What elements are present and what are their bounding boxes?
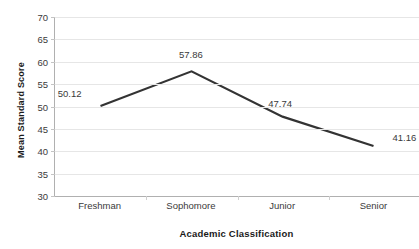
data-point-label: 47.74: [268, 97, 292, 108]
y-axis-tick: [51, 62, 55, 63]
data-point-label: 50.12: [58, 87, 82, 98]
y-axis-tick-label: 60: [24, 56, 48, 67]
x-axis-category-label: Junior: [269, 200, 295, 211]
y-axis-tick: [51, 151, 55, 152]
gridline: [55, 129, 419, 130]
y-axis-tick-label: 45: [24, 123, 48, 134]
x-axis-title: Academic Classification: [54, 228, 419, 239]
y-axis-tick-label: 70: [24, 12, 48, 23]
y-axis-tick: [51, 17, 55, 18]
x-axis-category-labels: FreshmanSophomoreJuniorSenior: [54, 200, 419, 216]
y-axis-tick-label: 40: [24, 146, 48, 157]
y-axis-tick: [51, 107, 55, 108]
plot-area: [54, 17, 419, 197]
gridline: [55, 84, 419, 85]
gridline: [55, 174, 419, 175]
y-axis-tick-label: 50: [24, 101, 48, 112]
gridline: [55, 39, 419, 40]
gridline: [55, 62, 419, 63]
x-axis-category-label: Freshman: [78, 200, 121, 211]
y-axis-tick-label: 65: [24, 34, 48, 45]
y-axis-tick-labels: 706560555045403530: [24, 0, 48, 249]
data-point-label: 57.86: [179, 49, 203, 60]
data-point-label: 41.16: [392, 132, 416, 143]
gridline: [55, 151, 419, 152]
y-axis-tick: [51, 39, 55, 40]
x-axis-category-label: Sophomore: [166, 200, 215, 211]
x-axis-category-label: Senior: [360, 200, 387, 211]
y-axis-tick: [51, 196, 55, 197]
y-axis-tick-label: 55: [24, 79, 48, 90]
line-chart: Mean Standard Score 706560555045403530 F…: [0, 0, 419, 249]
y-axis-tick: [51, 174, 55, 175]
gridline: [55, 17, 419, 18]
gridline: [55, 107, 419, 108]
y-axis-tick: [51, 129, 55, 130]
y-axis-tick-label: 30: [24, 191, 48, 202]
y-axis-tick-label: 35: [24, 168, 48, 179]
y-axis-tick: [51, 84, 55, 85]
